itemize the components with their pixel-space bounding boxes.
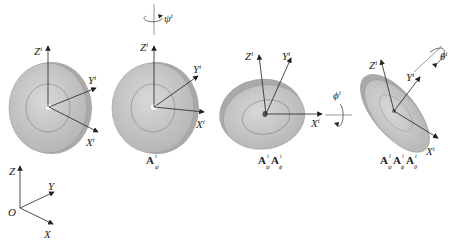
svg-text:A: A [271, 154, 279, 166]
svg-text:ψ: ψ [155, 164, 159, 170]
rotation-diagram: Zi Yi Xi ψi Zi Yi Xi A i ψ ϕi Zi [0, 0, 458, 246]
label-xi: Xi [425, 145, 435, 157]
label-yi: Yi [193, 63, 201, 75]
label-y: Y [48, 180, 56, 192]
svg-text:i: i [267, 153, 269, 159]
label-psi: ψi [164, 12, 173, 24]
label-zi: Zi [245, 50, 253, 62]
svg-text:ϕ: ϕ [401, 164, 404, 170]
label-yi: Yi [88, 74, 96, 86]
svg-text:θ: θ [414, 164, 417, 170]
svg-text:A: A [393, 154, 401, 166]
disc-initial: Zi Yi Xi [9, 45, 98, 154]
label-origin: O [8, 206, 16, 218]
disc-psi: ψi Zi Yi Xi A i ψ [112, 4, 205, 170]
label-x: X [43, 228, 52, 240]
label-yi: Yi [406, 71, 414, 83]
global-frame: Z Y X O [8, 165, 56, 240]
label-phi: ϕi [333, 89, 341, 101]
label-zi: Zi [34, 45, 42, 57]
caption-psi-phi: A [258, 154, 266, 166]
svg-text:ψ: ψ [266, 164, 270, 170]
svg-text:A: A [406, 154, 414, 166]
svg-text:i: i [415, 153, 417, 159]
disc-psi-phi-theta: θi Zi Yi Xi A i ψ A i ϕ A i θ [348, 46, 448, 170]
disc-psi-phi: ϕi Zi Yi Xi A i ψ A i ϕ [214, 50, 352, 170]
caption-psi: A [146, 154, 154, 166]
label-xi: Xi [195, 118, 205, 130]
svg-text:i: i [280, 153, 282, 159]
svg-text:ψ: ψ [388, 164, 392, 170]
svg-text:i: i [389, 153, 391, 159]
label-xi: Xi [85, 136, 95, 148]
label-z: Z [9, 165, 16, 177]
label-theta: θi [440, 50, 447, 62]
caption-psi-phi-theta: A [380, 154, 388, 166]
svg-text:ϕ: ϕ [279, 164, 282, 170]
label-zi: Zi [140, 41, 148, 53]
svg-text:i: i [402, 153, 404, 159]
label-xi: Xi [310, 117, 320, 129]
label-zi: Zi [369, 59, 377, 71]
label-yi: Yi [282, 50, 290, 62]
